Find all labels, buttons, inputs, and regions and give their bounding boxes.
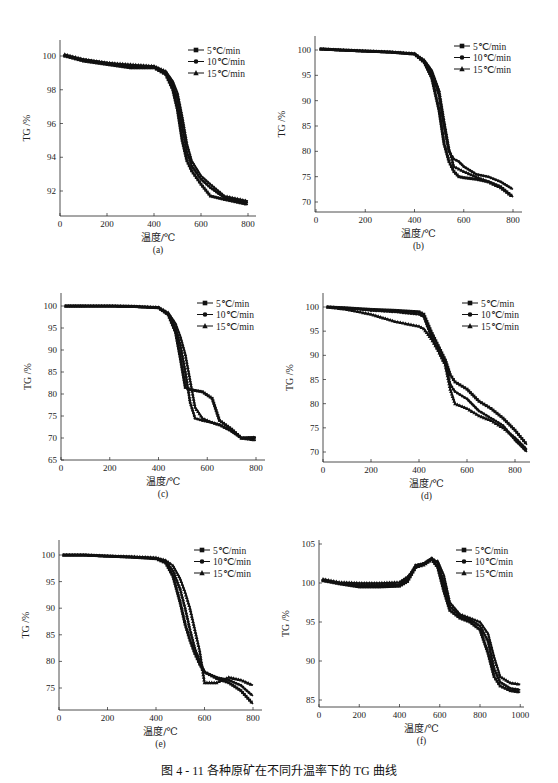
circle-marker-icon [179,588,182,591]
circle-marker-icon [370,309,373,312]
x-tick-label: 800 [506,215,520,225]
circle-marker-icon [181,357,184,360]
chart-a: 020040060080092949698100温度/℃(a)TG /%5℃/m… [21,40,256,256]
circle-marker-icon [185,612,188,615]
x-tick-label: 600 [460,465,474,475]
circle-marker-icon [404,311,407,314]
circle-marker-icon [396,311,399,314]
y-axis-label: TG /% [20,612,31,639]
x-tick-label: 0 [57,713,62,723]
y-tick-label: 105 [302,539,316,549]
circle-marker-icon [511,687,514,690]
square-marker-icon [188,639,191,642]
y-tick-label: 80 [48,389,58,399]
figure-caption: 图 4 - 11 各种原矿在不同升温率下的 TG 曲线 [0,761,558,779]
circle-marker-icon [462,559,467,564]
square-marker-icon [203,301,208,306]
x-axis-label: 温度/℃ [141,231,176,243]
circle-marker-icon [183,368,186,371]
circle-marker-icon [185,615,188,618]
legend: 5℃/min10℃/min15℃/min [456,546,513,579]
y-tick-label: 90 [46,603,56,613]
square-marker-icon [179,601,182,604]
square-marker-icon [185,628,188,631]
y-tick-label: 100 [44,301,58,311]
legend-label: 15℃/min [207,69,245,79]
chart-e: 02004006008007580859095100温度/℃(e)TG /%5℃… [20,540,262,750]
circle-marker-icon [184,371,187,374]
subplot-label: (b) [413,241,424,252]
series-line [323,560,520,693]
square-marker-icon [250,701,253,704]
square-marker-icon [181,370,184,373]
square-marker-icon [180,365,183,368]
subplot-label: (c) [158,489,169,500]
circle-marker-icon [187,388,190,391]
circle-marker-icon [394,310,397,313]
x-tick-label: 400 [152,463,166,473]
x-tick-label: 400 [412,465,426,475]
square-marker-icon [468,301,473,306]
x-tick-label: 600 [194,219,208,229]
legend-label: 10℃/min [481,310,519,320]
square-marker-icon [200,548,205,553]
circle-marker-icon [195,652,198,655]
square-marker-icon [179,604,182,607]
y-tick-label: 92 [47,186,56,196]
circle-marker-icon [194,649,197,652]
square-marker-icon [194,48,199,53]
y-tick-label: 80 [302,146,312,156]
circle-marker-icon [181,596,184,599]
square-marker-icon [182,378,185,381]
x-tick-label: 400 [147,219,161,229]
circle-marker-icon [185,376,188,379]
circle-marker-icon [484,175,487,178]
y-tick-label: 90 [48,345,58,355]
x-axis-label: 温度/℃ [409,477,444,489]
legend-label: 10℃/min [473,53,511,63]
circle-marker-icon [200,559,205,564]
chart-b: 0200400600800707580859095100温度/℃(b)TG /%… [276,36,522,252]
circle-marker-icon [185,378,188,381]
circle-marker-icon [187,620,190,623]
y-tick-label: 70 [302,197,312,207]
circle-marker-icon [386,310,389,313]
circle-marker-icon [514,688,517,691]
square-marker-icon [181,368,184,371]
chart-c: 020040060080065707580859095100温度/℃(c)TG … [22,293,265,500]
circle-marker-icon [180,593,183,596]
square-marker-icon [182,615,185,618]
circle-marker-icon [190,406,193,409]
x-axis-label: 温度/℃ [401,227,436,239]
circle-marker-icon [509,187,512,190]
y-tick-label: 100 [43,51,57,61]
x-tick-label: 800 [241,219,255,229]
square-marker-icon [186,631,189,634]
y-axis-label: TG /% [284,364,295,391]
y-tick-label: 100 [306,302,320,312]
y-tick-label: 95 [46,577,56,587]
circle-marker-icon [460,55,465,60]
y-tick-label: 75 [302,172,312,182]
x-axis-label: 温度/℃ [146,475,181,487]
x-tick-label: 400 [149,713,163,723]
chart-d: 0200400600800707580859095100温度/℃(d)TG /%… [284,293,530,502]
x-tick-label: 1000 [511,710,530,720]
circle-marker-icon [185,381,188,384]
legend-label: 5℃/min [475,546,508,556]
y-tick-label: 75 [310,423,320,433]
circle-marker-icon [192,641,195,644]
legend-label: 5℃/min [473,42,506,52]
circle-marker-icon [189,631,192,634]
circle-marker-icon [183,604,186,607]
x-tick-label: 200 [100,219,114,229]
circle-marker-icon [182,363,185,366]
circle-marker-icon [412,312,415,315]
circle-marker-icon [187,623,190,626]
circle-marker-icon [249,693,252,696]
y-tick-label: 70 [48,433,58,443]
y-axis-label: TG /% [21,115,32,142]
square-marker-icon [187,633,190,636]
x-tick-label: 200 [103,463,117,473]
circle-marker-icon [492,665,495,668]
